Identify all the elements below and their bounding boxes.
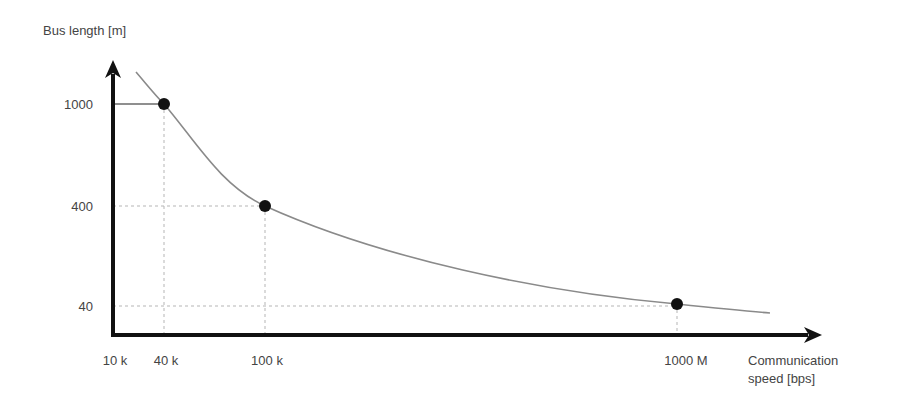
bus-length-chart: Bus length [m] 1000 400 [0,0,912,411]
point-1000m-40 [671,298,683,310]
point-100k-400 [259,200,271,212]
data-points [158,98,683,310]
axes [105,60,822,343]
x-tick-40k: 40 k [154,353,179,368]
y-tick-400: 400 [71,199,93,214]
x-axis-label-line2: speed [bps] [748,371,815,386]
x-axis-label: Communication speed [bps] [748,353,838,386]
x-tick-100k: 100 k [251,353,283,368]
y-tick-labels: 1000 400 40 [64,97,93,314]
y-tick-40: 40 [79,299,93,314]
chart-container: Bus length [m] 1000 400 [0,0,912,411]
y-tick-1000: 1000 [64,97,93,112]
x-axis-label-line1: Communication [748,353,838,368]
guide-lines [113,104,677,335]
x-tick-labels: 10 k 40 k 100 k 1000 M [103,353,708,368]
y-axis-label: Bus length [m] [43,23,126,38]
point-40k-1000 [158,98,170,110]
x-tick-1000m: 1000 M [664,353,707,368]
x-tick-10k: 10 k [103,353,128,368]
bus-length-curve [136,72,770,313]
